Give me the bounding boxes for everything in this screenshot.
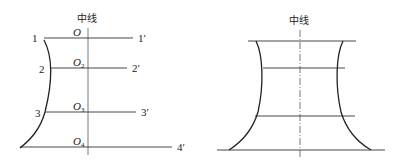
label-O3: O3 bbox=[73, 100, 85, 114]
label-2-prime: 2′ bbox=[132, 62, 140, 74]
left-profile-curve bbox=[20, 40, 51, 148]
label-4-prime: 4′ bbox=[177, 141, 185, 153]
left-diagram: 中线 1 2 3 1′ 2′ 3′ 4′ O O2 O3 O4 bbox=[20, 12, 185, 155]
label-O: O bbox=[73, 26, 81, 38]
label-2: 2 bbox=[39, 63, 45, 75]
right-diagram-left-curve bbox=[229, 41, 262, 150]
label-1: 1 bbox=[32, 32, 38, 44]
diagram-canvas: 中线 1 2 3 1′ 2′ 3′ 4′ O O2 O3 O4 中线 bbox=[0, 0, 397, 166]
label-3: 3 bbox=[35, 107, 41, 119]
right-centerline-label: 中线 bbox=[289, 14, 309, 26]
right-diagram: 中线 bbox=[217, 14, 385, 158]
right-diagram-right-curve bbox=[337, 41, 371, 150]
left-centerline-label: 中线 bbox=[77, 12, 97, 24]
label-3-prime: 3′ bbox=[141, 106, 149, 118]
label-1-prime: 1′ bbox=[138, 32, 146, 44]
label-O4: O4 bbox=[73, 135, 85, 149]
label-O2: O2 bbox=[73, 56, 85, 70]
